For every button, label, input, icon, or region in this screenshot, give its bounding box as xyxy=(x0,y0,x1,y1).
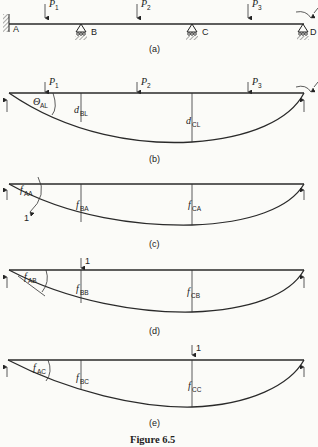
figure-title: Figure 6.5 xyxy=(130,434,175,445)
svg-text:CB: CB xyxy=(191,292,200,299)
caption-a: (a) xyxy=(149,44,160,54)
deflected-shape-c xyxy=(9,184,304,225)
caption-e: (e) xyxy=(149,418,160,428)
label-A: A xyxy=(13,24,19,34)
label-C: C xyxy=(202,27,209,37)
panel-b: P1 P2 P3 ΘAL dBL dCL (b) xyxy=(7,76,318,164)
svg-text:AB: AB xyxy=(28,277,37,284)
svg-text:1: 1 xyxy=(85,256,90,266)
svg-text:BB: BB xyxy=(80,289,89,296)
svg-text:CL: CL xyxy=(192,121,201,128)
svg-text:2: 2 xyxy=(147,82,151,89)
moment-arrow-icon xyxy=(296,12,311,18)
svg-text:1: 1 xyxy=(55,82,59,89)
panel-a: A B C D P1 xyxy=(3,0,318,54)
svg-text:BC: BC xyxy=(80,378,89,385)
svg-text:1: 1 xyxy=(196,343,201,353)
panel-c: 1 fAA fBA fCA (c) xyxy=(7,177,304,249)
label-B: B xyxy=(91,27,97,37)
roller-support-c-icon xyxy=(186,24,198,40)
svg-text:1: 1 xyxy=(55,4,59,11)
angle-arc-icon xyxy=(52,93,55,115)
svg-text:CC: CC xyxy=(192,386,202,393)
svg-text:BA: BA xyxy=(80,205,89,212)
label-D: D xyxy=(310,27,317,37)
svg-text:AL: AL xyxy=(40,102,48,109)
svg-text:BL: BL xyxy=(80,110,88,117)
svg-text:1: 1 xyxy=(24,213,29,223)
deflected-shape-e xyxy=(8,360,304,407)
figure-diagram: A B C D P1 xyxy=(0,0,318,447)
svg-text:AA: AA xyxy=(24,190,33,197)
svg-text:3: 3 xyxy=(258,82,262,89)
svg-text:AC: AC xyxy=(37,368,46,375)
svg-text:CA: CA xyxy=(192,205,202,212)
deflected-shape-d xyxy=(9,270,304,312)
caption-c: (c) xyxy=(149,239,160,249)
caption-b: (b) xyxy=(149,154,160,164)
panel-e: 1 fAC fBC fCC (e) xyxy=(7,343,304,428)
roller-support-b-icon xyxy=(75,24,87,40)
fixed-wall-icon xyxy=(3,14,9,32)
roller-support-d-icon xyxy=(297,24,309,40)
panel-d: 1 fAB fBB fCB (d) xyxy=(7,256,304,336)
svg-text:2: 2 xyxy=(147,4,151,11)
caption-d: (d) xyxy=(149,326,160,336)
deflected-shape-b xyxy=(9,93,304,142)
svg-text:3: 3 xyxy=(258,4,262,11)
moment-arrow-icon xyxy=(296,86,311,92)
